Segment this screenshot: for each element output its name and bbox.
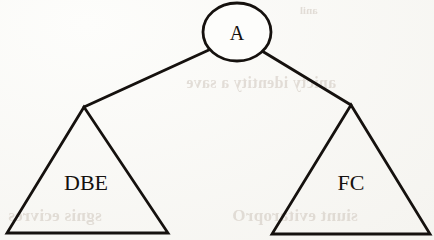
right-subtree-label: FC [338,170,365,195]
tree-diagram-figure: anil anicty identity a save sgnis ecivre… [0,0,434,240]
edge-root-to-left-subtree [84,49,211,107]
right-subtree-node[interactable]: FC [272,105,430,234]
left-subtree-label: DBE [64,170,108,195]
root-node-label: A [230,22,245,44]
tree-diagram-canvas: DBE FC A [0,0,434,240]
edge-group [84,49,351,107]
root-node[interactable]: A [203,3,271,61]
left-subtree-node[interactable]: DBE [7,107,168,233]
edge-root-to-right-subtree [262,51,351,105]
